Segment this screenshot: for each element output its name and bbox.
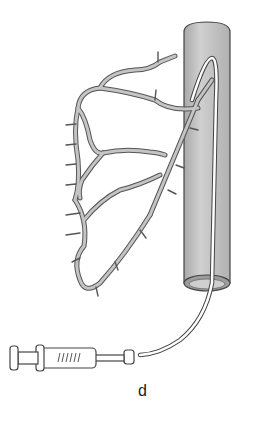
syringe — [10, 345, 134, 371]
panel-label: d — [138, 382, 147, 400]
angiography-illustration — [0, 0, 253, 422]
